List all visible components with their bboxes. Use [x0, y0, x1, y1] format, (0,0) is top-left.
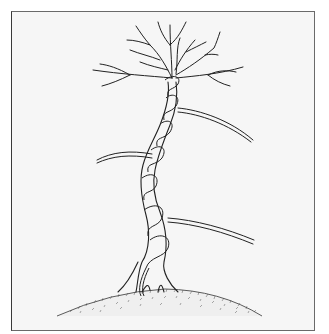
canopy-branches [93, 22, 243, 86]
bonsai-illustration [0, 0, 329, 334]
side-branches [97, 108, 254, 244]
trunk [118, 82, 178, 292]
copper-wire-coil [140, 77, 179, 296]
soil-mound [57, 289, 262, 316]
